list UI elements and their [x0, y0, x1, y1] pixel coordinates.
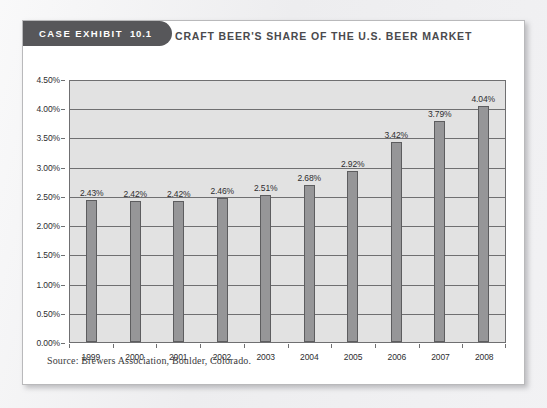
y-axis-tick-mark: [61, 109, 65, 110]
bar-value-label: 2.43%: [80, 188, 104, 198]
x-axis-tick-label: 2004: [300, 352, 319, 362]
exhibit-card: CASE EXHIBIT 10.1 CRAFT BEER'S SHARE OF …: [22, 20, 525, 385]
bar-slot: 3.42%: [375, 81, 419, 342]
y-axis-tick-mark: [61, 285, 65, 286]
exhibit-title: CRAFT BEER'S SHARE OF THE U.S. BEER MARK…: [175, 30, 472, 42]
x-axis-tick-mark: [505, 344, 506, 348]
x-axis-tick-mark: [462, 344, 463, 348]
bar: [173, 201, 184, 342]
bar-value-label: 3.42%: [384, 130, 408, 140]
y-axis-tick-label: 4.00%: [36, 104, 60, 114]
bar: [347, 171, 358, 342]
bar-value-label: 2.51%: [254, 183, 278, 193]
x-axis-tick-mark: [113, 344, 114, 348]
bar-series: 2.43%2.42%2.42%2.46%2.51%2.68%2.92%3.42%…: [70, 81, 505, 342]
bar: [86, 200, 97, 342]
x-axis-tick-label: 2008: [475, 352, 494, 362]
bar: [304, 185, 315, 342]
y-axis-tick-mark: [61, 80, 65, 81]
bar-chart: 4.50%4.00%3.50%3.00%2.50%2.00%1.50%1.00%…: [23, 51, 526, 361]
y-axis-tick-mark: [61, 168, 65, 169]
x-axis-tick-mark: [419, 344, 420, 348]
y-axis-tick-label: 0.00%: [36, 338, 60, 348]
bar-value-label: 4.04%: [471, 94, 495, 104]
x-axis-slot: 2005: [331, 344, 375, 366]
x-axis-tick-mark: [244, 344, 245, 348]
bar-slot: 2.42%: [157, 81, 201, 342]
y-axis-tick-mark: [61, 255, 65, 256]
x-axis-tick-label: 2007: [431, 352, 450, 362]
bar: [217, 198, 228, 342]
bar-slot: 4.04%: [462, 81, 506, 342]
bar: [434, 121, 445, 343]
x-axis-tick-mark: [375, 344, 376, 348]
y-axis-tick-label: 3.50%: [36, 133, 60, 143]
x-axis-slot: 2008: [462, 344, 506, 366]
bar-slot: 3.79%: [418, 81, 462, 342]
y-axis-tick-label: 1.50%: [36, 250, 60, 260]
x-axis-tick-mark: [288, 344, 289, 348]
bar-slot: 2.46%: [201, 81, 245, 342]
x-axis-tick-mark: [69, 344, 70, 348]
y-axis-tick-label: 0.50%: [36, 309, 60, 319]
y-axis-tick-mark: [61, 197, 65, 198]
x-axis-slot: 2007: [419, 344, 463, 366]
x-axis-tick-mark: [331, 344, 332, 348]
y-axis-tick-mark: [61, 226, 65, 227]
exhibit-tab-banner: CASE EXHIBIT 10.1: [23, 21, 172, 46]
bar-value-label: 2.42%: [167, 189, 191, 199]
y-axis-tick-label: 3.00%: [36, 163, 60, 173]
x-axis-tick-mark: [156, 344, 157, 348]
bar-value-label: 2.46%: [210, 186, 234, 196]
bar-slot: 2.51%: [244, 81, 288, 342]
bar-slot: 2.43%: [70, 81, 114, 342]
y-axis-tick-label: 2.00%: [36, 221, 60, 231]
y-axis: 4.50%4.00%3.50%3.00%2.50%2.00%1.50%1.00%…: [23, 80, 65, 343]
bar-slot: 2.92%: [331, 81, 375, 342]
exhibit-header: CASE EXHIBIT 10.1 CRAFT BEER'S SHARE OF …: [23, 21, 526, 51]
x-axis-tick-label: 2006: [388, 352, 407, 362]
y-axis-tick-label: 1.00%: [36, 280, 60, 290]
y-axis-tick-mark: [61, 138, 65, 139]
bar: [478, 106, 489, 342]
bar-slot: 2.42%: [114, 81, 158, 342]
y-axis-tick-label: 2.50%: [36, 192, 60, 202]
y-axis-tick-mark: [61, 314, 65, 315]
plot-area: 2.43%2.42%2.42%2.46%2.51%2.68%2.92%3.42%…: [69, 80, 506, 343]
bar-value-label: 3.79%: [428, 109, 452, 119]
x-axis-tick-label: 2005: [344, 352, 363, 362]
source-note: Source: Brewers Association, Boulder, Co…: [47, 355, 251, 366]
x-axis-slot: 2004: [288, 344, 332, 366]
y-axis-tick-label: 4.50%: [36, 75, 60, 85]
x-axis-slot: 2006: [375, 344, 419, 366]
bar: [391, 142, 402, 342]
exhibit-tab-label: CASE EXHIBIT: [39, 28, 123, 39]
y-axis-tick-mark: [61, 343, 65, 344]
bar-value-label: 2.68%: [297, 173, 321, 183]
x-axis-tick-label: 2003: [256, 352, 275, 362]
bar-value-label: 2.92%: [341, 159, 365, 169]
bar-value-label: 2.42%: [123, 189, 147, 199]
x-axis-tick-mark: [200, 344, 201, 348]
bar: [130, 201, 141, 342]
exhibit-tab-number: 10.1: [130, 28, 152, 39]
bar-slot: 2.68%: [288, 81, 332, 342]
bar: [260, 195, 271, 342]
